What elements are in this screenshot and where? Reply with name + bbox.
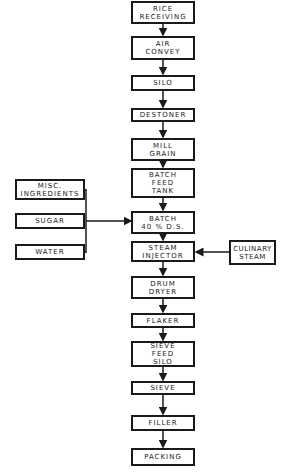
water-box: WATER (15, 244, 85, 260)
packing-box: PACKING (131, 448, 195, 466)
drum-dryer-label: DRUM DRYER (149, 280, 177, 296)
rice-receiving-box: RICE RECEIVING (131, 1, 195, 24)
flaker-box: FLAKER (131, 313, 195, 328)
steam-injector-box: STEAM INJECTOR (131, 241, 195, 262)
packing-label: PACKING (144, 453, 182, 461)
connector-lines (0, 0, 290, 475)
steam-injector-label: STEAM INJECTOR (142, 244, 183, 260)
misc-ingredients-label: MISC. INGREDIENTS (21, 182, 80, 198)
filler-box: FILLER (131, 415, 195, 431)
air-convey-box: AIR CONVEY (131, 36, 195, 60)
batch-feed-tank-box: BATCH FEED TANK (131, 168, 195, 198)
silo-box: SILO (131, 75, 195, 91)
destoner-label: DESTONER (140, 111, 187, 119)
drum-dryer-box: DRUM DRYER (131, 276, 195, 299)
water-label: WATER (35, 248, 64, 256)
flaker-label: FLAKER (147, 317, 180, 325)
rice-receiving-label: RICE RECEIVING (139, 5, 186, 21)
misc-ingredients-box: MISC. INGREDIENTS (15, 179, 85, 200)
sieve-box: SIEVE (131, 381, 195, 395)
sieve-label: SIEVE (150, 384, 175, 392)
sieve-feed-silo-box: SIEVE FEED SILO (131, 341, 195, 367)
silo-label: SILO (153, 79, 173, 87)
sieve-feed-silo-label: SIEVE FEED SILO (150, 342, 175, 366)
batch-label: BATCH 40 % D.S. (141, 215, 184, 231)
batch-feed-tank-label: BATCH FEED TANK (149, 171, 177, 195)
batch-box: BATCH 40 % D.S. (131, 211, 195, 234)
filler-label: FILLER (148, 419, 177, 427)
sugar-label: SUGAR (35, 217, 65, 225)
mill-grain-box: MILL GRAIN (131, 138, 195, 161)
air-convey-label: AIR CONVEY (145, 40, 180, 56)
culinary-steam-box: CULINARY STEAM (229, 240, 276, 265)
culinary-steam-label: CULINARY STEAM (233, 245, 272, 261)
sugar-box: SUGAR (15, 213, 85, 229)
destoner-box: DESTONER (131, 108, 195, 122)
mill-grain-label: MILL GRAIN (149, 142, 176, 158)
